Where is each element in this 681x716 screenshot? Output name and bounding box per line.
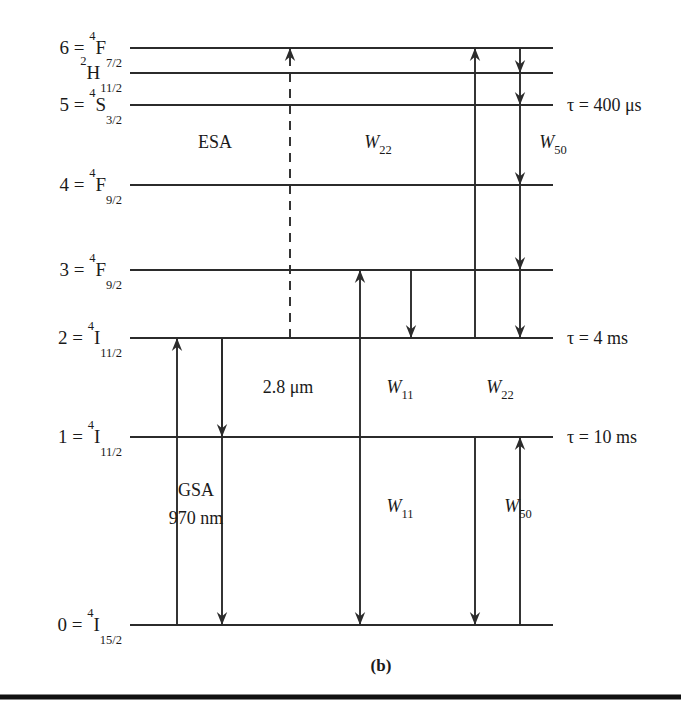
energy-level-diagram: 6 = 4F7/22H11/25 = 4S3/24 = 4F9/23 = 4F9… <box>0 0 681 716</box>
lifetime-label: τ = 4 ms <box>567 328 628 348</box>
energy-level-figure: 6 = 4F7/22H11/25 = 4S3/24 = 4F9/23 = 4F9… <box>0 0 681 716</box>
gsa-wavelength-label: 970 nm <box>169 508 224 528</box>
lifetime-label: τ = 400 μs <box>567 95 642 115</box>
process-label: 2.8 μm <box>263 377 314 397</box>
process-label: ESA <box>198 132 232 152</box>
gsa-label: GSA <box>178 480 214 500</box>
figure-caption: (b) <box>371 656 392 675</box>
lifetime-label: τ = 10 ms <box>567 427 637 447</box>
